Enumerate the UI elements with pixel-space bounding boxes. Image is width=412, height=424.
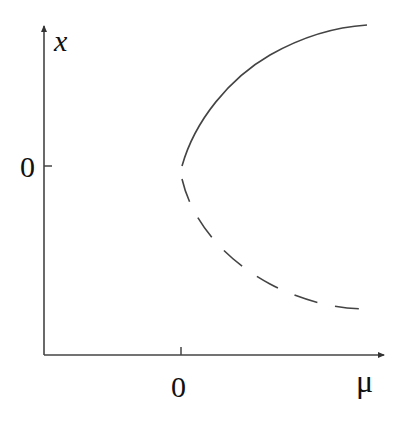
y-axis-label: x [54, 26, 67, 56]
stable-branch-solid [182, 25, 367, 166]
unstable-branch-dashed [182, 179, 367, 309]
x-axis-zero-label: 0 [171, 372, 186, 402]
bifurcation-diagram [0, 0, 412, 424]
y-axis-zero-label: 0 [20, 152, 35, 182]
x-axis-label: μ [356, 365, 373, 397]
